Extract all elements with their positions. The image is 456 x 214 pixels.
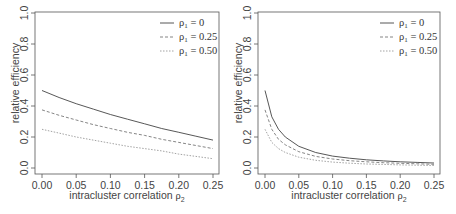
y-tick-label: 1.0 [18,6,30,21]
legend-label: ρ1 = 0 [179,17,204,30]
series-line [42,91,213,141]
x-tick-label: 0.25 [203,179,224,191]
series-line [42,110,213,149]
series-line [42,129,213,158]
y-tick-label: 0.0 [241,161,253,176]
y-tick-label: 1.0 [241,6,253,21]
series-line [265,110,434,164]
y-axis-label: relative efficiency [9,42,21,123]
x-tick-label: 0.00 [255,179,276,191]
legend-label: ρ1 = 0.25 [179,31,217,44]
x-axis-label: intracluster correlation ρ2 [69,189,184,203]
x-axis-label: intracluster correlation ρ2 [291,189,406,203]
legend-label: ρ1 = 0 [399,17,424,30]
legend-label: ρ1 = 0.25 [399,31,437,44]
y-axis-label: relative efficiency [232,42,244,123]
x-tick-label: 0.25 [424,179,445,191]
y-tick-label: 0.2 [18,130,30,145]
y-tick-label: 0.0 [18,161,30,176]
x-tick-label: 0.00 [32,179,53,191]
y-tick-label: 0.2 [241,130,253,145]
legend-label: ρ1 = 0.50 [399,45,437,58]
legend-label: ρ1 = 0.50 [179,45,217,58]
series-line [265,91,434,164]
figure: 0.000.050.100.150.200.250.00.20.40.60.81… [0,0,456,214]
right-chart: 0.000.050.100.150.200.250.00.20.40.60.81… [232,6,444,203]
left-chart: 0.000.050.100.150.200.250.00.20.40.60.81… [9,6,223,203]
